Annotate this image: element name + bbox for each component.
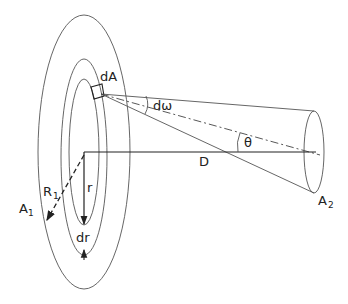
domega-arc [145,96,148,114]
svg-text:A: A [19,201,28,216]
label-R1: R 1 [43,184,59,201]
svg-text:R: R [43,184,52,199]
label-dr: dr [76,230,90,245]
svg-text:1: 1 [28,208,34,218]
label-A2: A 2 [318,193,334,210]
label-D: D [199,154,209,169]
label-A1: A 1 [19,201,34,218]
label-dA: dA [100,69,117,84]
radius-R1-arrow [47,155,84,220]
view-factor-diagram: dA dω θ D r dr R 1 A 1 A 2 [0,0,348,304]
area-element-dA [91,84,104,99]
label-domega: dω [153,98,172,113]
svg-text:A: A [318,193,327,208]
svg-text:1: 1 [53,191,59,201]
label-theta: θ [244,135,252,150]
theta-arc [237,133,240,152]
label-r: r [87,180,93,195]
svg-text:2: 2 [328,200,334,210]
